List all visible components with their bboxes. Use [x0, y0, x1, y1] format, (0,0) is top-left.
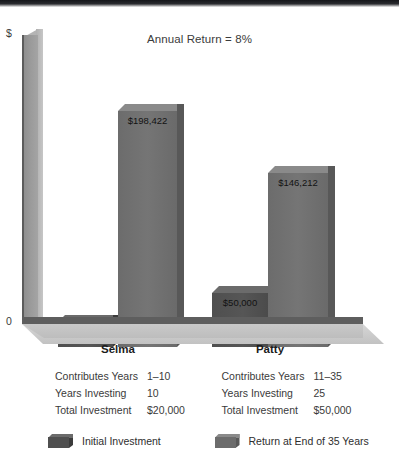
detail-value: $50,000 — [314, 403, 352, 417]
detail-row: Total Investment $50,000 — [222, 403, 399, 417]
bar-front-face — [118, 111, 177, 347]
legend-swatch-icon — [48, 434, 73, 448]
legend-label: Initial Investment — [82, 435, 161, 447]
detail-key: Years Investing — [222, 386, 314, 400]
detail-key: Contributes Years — [55, 369, 147, 383]
legend-swatch-icon — [215, 434, 240, 448]
category-label-selma: Selma — [58, 343, 178, 355]
detail-key: Total Investment — [55, 403, 147, 417]
plot-area: Annual Return = 8% $ 0 $20,000 $198,422 — [0, 7, 399, 347]
details-tables: Contributes Years 1–10 Years Investing 1… — [0, 369, 399, 417]
details-table-patty: Contributes Years 11–35 Years Investing … — [200, 369, 399, 417]
detail-row: Years Investing 10 — [55, 386, 200, 400]
legend-label: Return at End of 35 Years — [249, 435, 369, 447]
y-axis-top-tick: $ — [6, 27, 12, 39]
chart-floor-front — [22, 324, 363, 338]
chart-title: Annual Return = 8% — [0, 33, 399, 45]
page-top-edge-band — [0, 0, 399, 7]
detail-key: Total Investment — [222, 403, 314, 417]
bar-top-face — [268, 166, 328, 173]
detail-value: 11–35 — [314, 369, 342, 383]
legend-item-return-at-end[interactable]: Return at End of 35 Years — [200, 434, 399, 448]
bar-side-face — [177, 104, 184, 347]
detail-row: Contributes Years 1–10 — [55, 369, 200, 383]
bar-top-face — [212, 286, 268, 293]
detail-value: 1–10 — [147, 369, 170, 383]
legend-item-initial-investment[interactable]: Initial Investment — [0, 434, 200, 448]
bar-top-face — [118, 104, 177, 111]
detail-key: Contributes Years — [222, 369, 314, 383]
chart-legend: Initial Investment Return at End of 35 Y… — [0, 434, 399, 448]
details-table-selma: Contributes Years 1–10 Years Investing 1… — [0, 369, 200, 417]
y-axis-wall — [22, 29, 43, 323]
category-label-patty: Patty — [212, 343, 328, 355]
chart-page: Annual Return = 8% $ 0 $20,000 $198,422 — [0, 0, 399, 475]
detail-value: 10 — [147, 386, 159, 400]
chart-floor-top — [22, 317, 363, 324]
detail-row: Contributes Years 11–35 — [222, 369, 399, 383]
detail-row: Total Investment $20,000 — [55, 403, 200, 417]
detail-row: Years Investing 25 — [222, 386, 399, 400]
detail-key: Years Investing — [55, 386, 147, 400]
bar-selma-return[interactable]: $198,422 — [118, 111, 177, 347]
y-axis-wall-face — [22, 35, 38, 323]
y-axis-zero-tick: 0 — [6, 315, 12, 327]
detail-value: $20,000 — [147, 403, 185, 417]
detail-value: 25 — [314, 386, 326, 400]
